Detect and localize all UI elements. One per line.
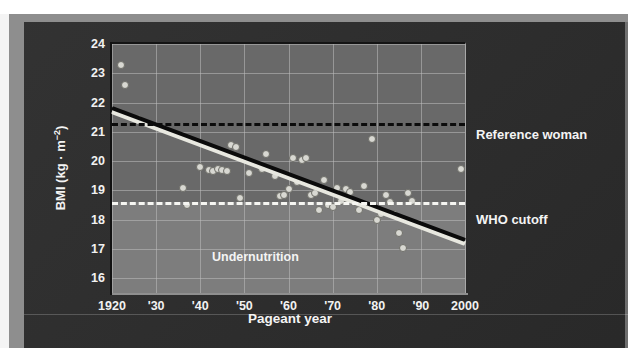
y-axis-label: BMI (kg · m−2) xyxy=(52,126,68,211)
data-point xyxy=(117,61,125,69)
data-point xyxy=(399,244,407,252)
gridline-vertical xyxy=(112,44,113,293)
gridline-vertical xyxy=(156,44,157,293)
data-point xyxy=(315,206,323,214)
data-point xyxy=(360,182,368,190)
y-tick-label: 22 xyxy=(91,96,105,110)
y-axis-label-main: BMI (kg · m xyxy=(53,140,68,210)
figure-page: 242322212019181716 1920'30'40'50'60'70'8… xyxy=(0,0,628,348)
who-cutoff-line xyxy=(112,202,465,205)
undernutrition-annotation: Undernutrition xyxy=(212,250,299,264)
y-tick-label: 24 xyxy=(91,37,105,51)
x-axis-spine xyxy=(112,293,468,295)
y-axis-label-exponent: −2 xyxy=(52,130,62,140)
data-point xyxy=(262,150,270,158)
data-point xyxy=(196,163,204,171)
y-tick-label: 18 xyxy=(91,213,105,227)
x-tick-label: '80 xyxy=(368,299,385,313)
data-point xyxy=(395,229,403,237)
y-tick-label: 21 xyxy=(91,125,105,139)
x-axis-label: Pageant year xyxy=(248,311,332,326)
data-point xyxy=(457,165,465,173)
page-top-margin xyxy=(0,0,628,14)
data-point xyxy=(121,81,129,89)
y-tick-label: 16 xyxy=(91,271,105,285)
y-tick-label: 20 xyxy=(91,154,105,168)
chart-figure: 242322212019181716 1920'30'40'50'60'70'8… xyxy=(24,22,628,348)
x-tick-label: '30 xyxy=(148,299,165,313)
gridline-vertical xyxy=(377,44,378,293)
reference-woman-annotation: Reference woman xyxy=(476,127,587,142)
data-point xyxy=(232,143,240,151)
gridline-vertical xyxy=(465,44,466,293)
data-point xyxy=(179,184,187,192)
page-left-margin xyxy=(0,14,9,348)
data-point xyxy=(223,167,231,175)
y-axis-label-close: ) xyxy=(53,126,68,130)
data-point xyxy=(289,154,297,162)
data-point xyxy=(368,135,376,143)
data-point xyxy=(236,194,244,202)
x-tick-label: '40 xyxy=(192,299,209,313)
gridline-vertical xyxy=(333,44,334,293)
data-point xyxy=(302,154,310,162)
x-tick-label: 1920 xyxy=(98,299,126,313)
gridline-vertical xyxy=(421,44,422,293)
x-tick-label: 2000 xyxy=(451,299,479,313)
reference-woman-line xyxy=(112,123,465,126)
who-cutoff-annotation: WHO cutoff xyxy=(476,212,547,227)
y-tick-label: 23 xyxy=(91,66,105,80)
data-point xyxy=(285,185,293,193)
y-tick-label: 17 xyxy=(91,242,105,256)
x-tick-label: '90 xyxy=(412,299,429,313)
y-tick-label: 19 xyxy=(91,183,105,197)
data-point xyxy=(245,169,253,177)
